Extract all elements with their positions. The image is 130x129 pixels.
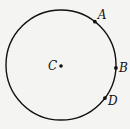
point-label-b: B xyxy=(118,61,128,75)
point-label-d: D xyxy=(107,94,118,108)
point-b xyxy=(114,66,118,70)
point-label-a: A xyxy=(97,8,107,22)
circle-diagram: C ABD xyxy=(0,0,130,129)
center-label: C xyxy=(48,59,57,73)
center-point xyxy=(59,64,63,68)
point-a xyxy=(93,20,97,24)
point-d xyxy=(103,96,107,100)
